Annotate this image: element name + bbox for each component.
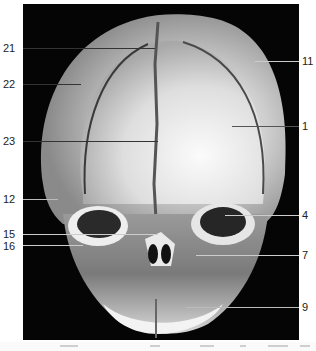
leader-line-15 — [23, 234, 158, 235]
label-9: 9 — [302, 302, 308, 313]
leader-line-23 — [23, 141, 158, 142]
label-7: 7 — [302, 250, 308, 261]
leader-line-11 — [255, 61, 299, 62]
label-15: 15 — [3, 229, 15, 240]
skull-photograph — [23, 4, 299, 340]
skull-illustration — [23, 4, 299, 340]
label-4: 4 — [302, 210, 308, 221]
label-23: 23 — [3, 136, 15, 147]
leader-line-21 — [23, 48, 155, 49]
label-1: 1 — [302, 121, 308, 132]
label-11: 11 — [302, 56, 313, 67]
label-12: 12 — [3, 194, 15, 205]
leader-line-22 — [23, 84, 81, 85]
caption-fragment — [0, 342, 316, 351]
leader-line-1 — [232, 126, 299, 127]
leader-line-16 — [23, 245, 83, 246]
leader-line-4 — [225, 215, 299, 216]
leader-line-9 — [186, 307, 299, 308]
anatomical-figure: 21 22 23 12 15 16 11 1 4 7 9 — [0, 0, 316, 351]
label-16: 16 — [3, 241, 15, 252]
label-21: 21 — [3, 43, 15, 54]
leader-line-7 — [196, 255, 299, 256]
label-22: 22 — [3, 79, 15, 90]
leader-line-12 — [23, 199, 58, 200]
